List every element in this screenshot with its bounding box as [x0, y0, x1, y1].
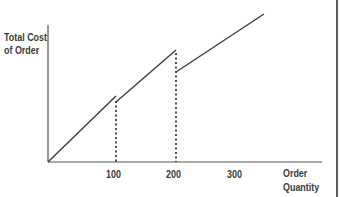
x-tick-100: 100 [106, 168, 121, 181]
cost-segment-3 [176, 14, 264, 72]
x-tick-300: 300 [227, 168, 242, 181]
x-axis-label-line1: Order [283, 167, 307, 180]
x-tick-200: 200 [166, 168, 181, 181]
cost-segment-2 [116, 50, 176, 102]
x-axis-label-line2: Quantity [283, 181, 319, 194]
frame-border [336, 0, 338, 197]
y-axis-label-line2: of Order [4, 44, 39, 57]
y-axis-label-line1: Total Cost [4, 31, 47, 44]
cost-segment-1 [48, 96, 116, 162]
